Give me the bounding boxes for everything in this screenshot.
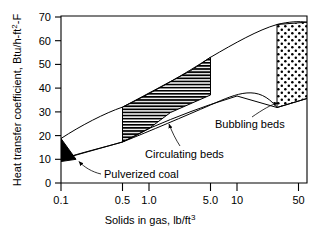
x-tick-label: 50 — [292, 194, 304, 206]
svg-text:Solids in gas, lb/ft3: Solids in gas, lb/ft3 — [105, 213, 196, 226]
y-tick-label: 30 — [39, 106, 51, 118]
y-tick-label: 60 — [39, 35, 51, 47]
annotation-circulating-beds-label: Circulating beds — [145, 148, 224, 160]
chart-figure: 0 10 20 30 40 50 60 70 0.1 0.5 1.0 5.0 1… — [0, 0, 326, 234]
y-tick-label: 70 — [39, 11, 51, 23]
region-bubbling-beds — [277, 22, 307, 107]
x-axis-title-text: Solids in gas, lb/ft — [105, 214, 191, 226]
y-tick-label: 50 — [39, 58, 51, 70]
x-tick-label: 1.0 — [141, 194, 156, 206]
y-axis-ticks — [55, 17, 61, 183]
y-axis-title-text: Heat transfer coefficient, Btu/h-ft — [11, 29, 23, 187]
annotation-circulating-beds: Circulating beds — [145, 124, 224, 160]
heat-transfer-coefficient-chart: 0 10 20 30 40 50 60 70 0.1 0.5 1.0 5.0 1… — [0, 0, 326, 234]
y-tick-label: 20 — [39, 130, 51, 142]
y-tick-label: 10 — [39, 153, 51, 165]
y-tick-label: 40 — [39, 82, 51, 94]
region-circulating-beds — [123, 57, 211, 142]
y-axis-tick-labels: 0 10 20 30 40 50 60 70 — [39, 11, 51, 189]
x-axis-title-superscript: 3 — [191, 213, 196, 222]
x-axis-tick-labels: 0.1 0.5 1.0 5.0 10 50 — [53, 194, 304, 206]
y-tick-label: 0 — [45, 177, 51, 189]
x-axis-ticks — [61, 183, 299, 191]
y-axis-title-text-tail: -F — [11, 14, 23, 25]
x-tick-label: 0.5 — [115, 194, 130, 206]
annotation-pulverized-coal-label: Pulverized coal — [104, 168, 179, 180]
x-tick-label: 10 — [231, 194, 243, 206]
x-tick-label: 5.0 — [203, 194, 218, 206]
annotation-pulverized-coal: Pulverized coal — [79, 162, 179, 181]
annotation-bubbling-beds-label: Bubbling beds — [215, 118, 285, 130]
x-axis-title: Solids in gas, lb/ft3 — [105, 213, 196, 226]
svg-text:Heat transfer coefficient, Btu: Heat transfer coefficient, Btu/h-ft2-F — [10, 14, 23, 187]
y-axis-title: Heat transfer coefficient, Btu/h-ft2-F — [10, 14, 23, 187]
x-tick-label: 0.1 — [53, 194, 68, 206]
